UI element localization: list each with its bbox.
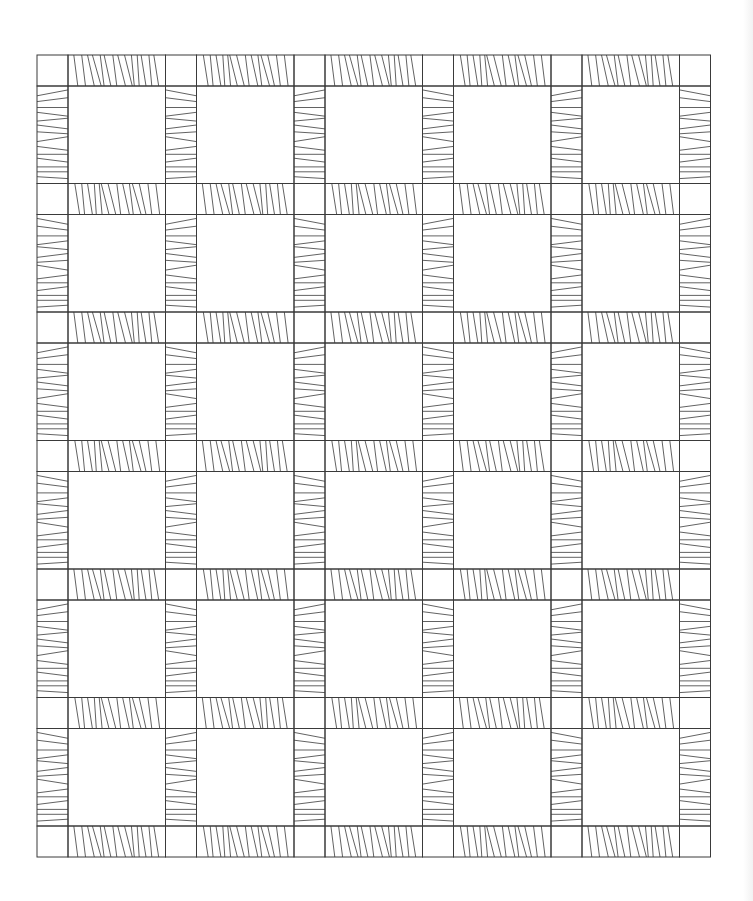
sashing-strip-horizontal	[197, 569, 295, 600]
cornerstone	[166, 698, 197, 729]
cornerstone	[423, 55, 454, 86]
sashing-strip-outline	[582, 184, 680, 215]
sashing-strip-vertical	[294, 472, 325, 570]
cornerstone	[294, 441, 325, 472]
sashing-strip-vertical	[37, 86, 68, 184]
sashing-strip-outline	[582, 698, 680, 729]
sashing-strip-vertical	[551, 343, 582, 441]
cornerstone	[680, 184, 711, 215]
sashing-strip-vertical	[166, 729, 197, 827]
sashing-strip-vertical	[37, 600, 68, 698]
quilt-block	[582, 600, 680, 698]
quilt-block	[68, 472, 166, 570]
cornerstone	[37, 826, 68, 857]
cornerstone	[423, 312, 454, 343]
cornerstone	[423, 826, 454, 857]
sashing-strip-outline	[454, 184, 552, 215]
sashing-strip-horizontal	[197, 184, 295, 215]
sashing-strip-outline	[582, 55, 680, 86]
quilt-block	[325, 729, 423, 827]
sashing-strip-outline	[325, 569, 423, 600]
quilt-block	[582, 215, 680, 313]
sashing-strip-horizontal	[325, 569, 423, 600]
sashing-strip-outline	[454, 312, 552, 343]
sashing-strip-vertical	[294, 343, 325, 441]
sashing-strip-outline	[325, 441, 423, 472]
cornerstone	[551, 441, 582, 472]
sashing-strip-horizontal	[197, 312, 295, 343]
cornerstone	[294, 698, 325, 729]
quilt-block	[197, 600, 295, 698]
sashing-strip-horizontal	[582, 826, 680, 857]
quilt-block	[68, 343, 166, 441]
sashing-strip-outline	[325, 826, 423, 857]
sashing-strip-outline	[582, 441, 680, 472]
sashing-strip-horizontal	[582, 698, 680, 729]
sashing-strip-horizontal	[582, 569, 680, 600]
cornerstone	[166, 184, 197, 215]
sashing-strip-horizontal	[325, 55, 423, 86]
cornerstone	[294, 569, 325, 600]
cornerstone	[551, 826, 582, 857]
sashing-strip-vertical	[551, 86, 582, 184]
quilt-sashing-strips	[37, 55, 711, 857]
sashing-strip-horizontal	[68, 55, 166, 86]
cornerstone	[551, 312, 582, 343]
sashing-strip-horizontal	[68, 569, 166, 600]
cornerstone	[166, 441, 197, 472]
sashing-strip-vertical	[166, 86, 197, 184]
sashing-strip-vertical	[551, 600, 582, 698]
sashing-strip-outline	[197, 826, 295, 857]
sashing-strip-horizontal	[325, 826, 423, 857]
cornerstone	[423, 698, 454, 729]
sashing-strip-vertical	[294, 86, 325, 184]
cornerstone	[551, 698, 582, 729]
quilt-block	[68, 86, 166, 184]
sashing-strip-vertical	[37, 343, 68, 441]
sashing-strip-horizontal	[454, 826, 552, 857]
cornerstone	[37, 184, 68, 215]
quilt-block	[582, 343, 680, 441]
sashing-strip-vertical	[423, 343, 454, 441]
quilt-block	[197, 729, 295, 827]
sashing-strip-horizontal	[582, 55, 680, 86]
sashing-strip-outline	[582, 312, 680, 343]
sashing-strip-vertical	[423, 729, 454, 827]
sashing-strip-vertical	[166, 215, 197, 313]
sashing-strip-vertical	[166, 600, 197, 698]
cornerstone	[423, 184, 454, 215]
quilt-block	[454, 343, 552, 441]
sashing-strip-vertical	[680, 600, 711, 698]
cornerstone	[680, 698, 711, 729]
quilt-diagram	[0, 0, 753, 901]
sashing-strip-horizontal	[197, 441, 295, 472]
sashing-strip-horizontal	[68, 441, 166, 472]
cornerstone	[37, 441, 68, 472]
cornerstone	[166, 569, 197, 600]
cornerstone	[37, 569, 68, 600]
quilt-block	[325, 86, 423, 184]
sashing-strip-vertical	[680, 729, 711, 827]
cornerstone	[37, 55, 68, 86]
cornerstone	[423, 569, 454, 600]
sashing-strip-vertical	[551, 729, 582, 827]
sashing-strip-outline	[454, 569, 552, 600]
sashing-strip-vertical	[37, 215, 68, 313]
sashing-strip-horizontal	[325, 184, 423, 215]
sashing-strip-horizontal	[325, 698, 423, 729]
sashing-strip-vertical	[166, 472, 197, 570]
sashing-strip-horizontal	[68, 826, 166, 857]
sashing-strip-horizontal	[325, 312, 423, 343]
sashing-strip-outline	[582, 826, 680, 857]
sashing-strip-vertical	[680, 86, 711, 184]
quilt-block	[454, 472, 552, 570]
sashing-strip-horizontal	[197, 55, 295, 86]
sashing-strip-horizontal	[454, 312, 552, 343]
sashing-strip-outline	[197, 569, 295, 600]
sashing-strip-outline	[325, 55, 423, 86]
cornerstone	[680, 441, 711, 472]
sashing-strip-outline	[454, 441, 552, 472]
sashing-strip-horizontal	[68, 312, 166, 343]
sashing-strip-vertical	[551, 472, 582, 570]
cornerstone	[166, 826, 197, 857]
